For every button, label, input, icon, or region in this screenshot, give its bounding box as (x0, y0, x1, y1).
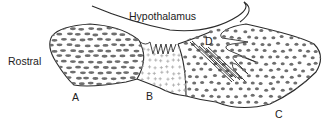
label-d: D (205, 36, 213, 47)
label-rostral: Rostral (8, 56, 41, 67)
diagram: Hypothalamus Rostral A B C D (0, 0, 326, 125)
label-a: A (72, 92, 79, 103)
region-b-pattern (135, 47, 188, 100)
label-hypothalamus: Hypothalamus (129, 11, 196, 22)
region-b-outline (137, 79, 186, 96)
label-c: C (275, 109, 283, 120)
label-b: B (146, 91, 153, 102)
region-c-pattern (182, 29, 324, 112)
region-b-zigzag (140, 42, 176, 54)
